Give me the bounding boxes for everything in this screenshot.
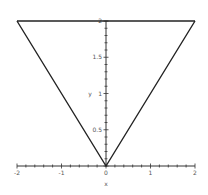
- x-tick-label: 1: [149, 169, 153, 176]
- y-tick-label: 0.5: [92, 126, 102, 133]
- x-axis-label: x: [104, 180, 108, 187]
- x-tick-label: -1: [59, 169, 65, 176]
- y-tick-label: 1: [98, 90, 102, 97]
- x-tick-label: -2: [14, 169, 20, 176]
- plot-area: -2-10120.511.52 x y: [0, 0, 208, 195]
- x-tick-label: 2: [193, 169, 197, 176]
- y-axis-label: y: [88, 90, 92, 98]
- axes: -2-10120.511.52: [14, 17, 197, 176]
- y-tick-label: 1.5: [92, 53, 102, 60]
- x-tick-label: 0: [104, 169, 108, 176]
